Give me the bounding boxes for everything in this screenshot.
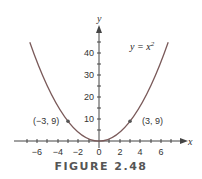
equation-base: y = x [129, 41, 151, 52]
y-tick-label: 10 [84, 114, 94, 124]
figure-caption: FIGURE 2.48 [0, 160, 202, 173]
equation-exponent: 2 [151, 40, 155, 48]
point-label-right: (3, 9) [142, 116, 163, 126]
equation-label: y = x2 [129, 40, 155, 52]
y-tick-label: 20 [84, 92, 94, 102]
point-label-left: (−3, 9) [33, 116, 59, 126]
y-axis-label: y [96, 13, 102, 24]
x-tick-label: −4 [53, 147, 63, 157]
x-tick-label: 4 [137, 147, 142, 157]
x-tick-label: 2 [117, 147, 122, 157]
point-neg3-9 [66, 119, 70, 123]
x-tick-label: −6 [32, 147, 42, 157]
x-axis-arrow-icon [180, 138, 188, 144]
y-axis-arrow-icon [96, 25, 102, 33]
point-3-9 [128, 119, 132, 123]
y-tick-label: 40 [84, 48, 94, 58]
y-tick-label: 30 [84, 70, 94, 80]
x-tick-label: 6 [158, 147, 163, 157]
x-tick-label: 0 [96, 147, 101, 157]
x-tick-label: −2 [73, 147, 83, 157]
x-axis-label: x [187, 136, 193, 147]
parabola-chart: −6 −4 −2 0 2 4 6 10 20 30 40 x y y = x2 … [0, 0, 202, 179]
